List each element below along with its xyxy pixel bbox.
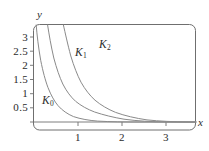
x-axis-name: x — [198, 117, 203, 128]
y-tick-label-1p5: 1.5 — [0, 74, 28, 85]
curve-k0 — [36, 25, 196, 122]
curve-label-k1-sub: 1 — [83, 51, 87, 60]
y-tick-label-0p5: 0.5 — [0, 102, 28, 113]
curve-label-k0-sub: 0 — [50, 99, 54, 108]
curve-k1 — [48, 25, 196, 122]
y-tick-label-2p5: 2.5 — [0, 46, 28, 57]
curve-label-k2: K2 — [99, 39, 110, 51]
curve-label-k0-base: K — [42, 94, 50, 106]
curve-label-k1-base: K — [75, 46, 83, 58]
plot-frame — [34, 25, 196, 131]
y-tick-label-3: 3 — [0, 32, 28, 43]
x-tick-label-1: 1 — [68, 132, 88, 143]
y-tick-label-1: 1 — [0, 88, 28, 99]
curve-k2 — [63, 25, 196, 122]
curve-label-k1: K1 — [75, 47, 86, 59]
x-tick-label-3: 3 — [156, 132, 176, 143]
bessel-function-plot: y x 3 2.5 2 1.5 1 0.5 1 2 3 K0 K1 K2 — [0, 0, 209, 151]
curve-label-k2-sub: 2 — [107, 43, 111, 52]
x-tick-label-2: 2 — [112, 132, 132, 143]
curve-label-k0: K0 — [42, 95, 53, 107]
y-tick-label-2: 2 — [0, 60, 28, 71]
y-axis-name: y — [37, 9, 42, 20]
x-axis-ticks — [78, 122, 166, 126]
curve-label-k2-base: K — [99, 38, 107, 50]
plot-canvas — [0, 0, 209, 151]
